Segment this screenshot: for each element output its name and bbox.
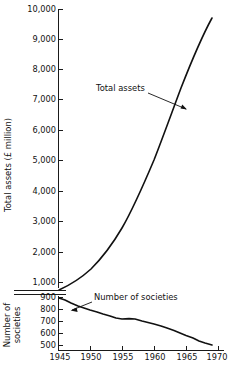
y-ticklabel-900: 900 bbox=[40, 292, 56, 302]
total-assets-annotation-label: Total assets bbox=[95, 83, 145, 93]
x-ticklabel-1945: 1945 bbox=[50, 352, 71, 362]
societies-y-ticklabels: 900 800 700 600 500 bbox=[40, 292, 56, 350]
y-ticklabel-800: 800 bbox=[40, 304, 56, 314]
y-ticklabel-3000: 3,000 bbox=[33, 216, 56, 226]
x-ticklabel-1970: 1970 bbox=[207, 352, 228, 362]
x-ticklabel-1965: 1965 bbox=[177, 352, 198, 362]
y-ticklabel-600: 600 bbox=[40, 328, 56, 338]
y-ticklabel-6000: 6,000 bbox=[33, 125, 56, 135]
y-ticklabel-9000: 9,000 bbox=[33, 34, 56, 44]
y-ticklabel-5000: 5,000 bbox=[33, 155, 56, 165]
x-ticklabel-1960: 1960 bbox=[145, 352, 166, 362]
societies-axis-title-line2: societies bbox=[12, 307, 22, 344]
y-ticklabel-700: 700 bbox=[40, 316, 56, 326]
y-ticklabel-2000: 2,000 bbox=[33, 247, 56, 257]
chart-figure: 10,000 9,000 8,000 7,000 6,000 5,000 4,0… bbox=[0, 0, 233, 373]
total-assets-axis-title: Total assets (£ million) bbox=[3, 118, 13, 213]
societies-axis-title: Number of societies bbox=[2, 302, 22, 347]
y-ticklabel-1000: 1,000 bbox=[33, 277, 56, 287]
chart-svg: 10,000 9,000 8,000 7,000 6,000 5,000 4,0… bbox=[0, 0, 233, 373]
y-ticklabel-10000: 10,000 bbox=[27, 4, 56, 14]
y-ticklabel-8000: 8,000 bbox=[33, 64, 56, 74]
x-ticklabel-1950: 1950 bbox=[81, 352, 102, 362]
x-ticklabel-1955: 1955 bbox=[113, 352, 134, 362]
societies-axis-title-line1: Number of bbox=[2, 302, 12, 347]
y-ticklabel-4000: 4,000 bbox=[33, 186, 56, 196]
y-ticklabel-7000: 7,000 bbox=[33, 94, 56, 104]
y-ticklabel-500: 500 bbox=[40, 340, 56, 350]
societies-annotation-label: Number of societies bbox=[94, 292, 178, 302]
